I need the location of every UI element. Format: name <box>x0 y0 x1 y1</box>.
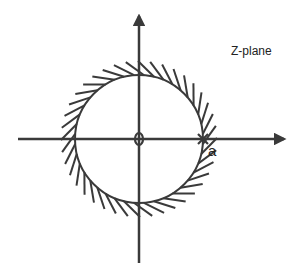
pole-label: a <box>208 142 217 159</box>
z-plane-diagram: a Z-plane <box>0 0 298 279</box>
plane-title: Z-plane <box>231 44 272 58</box>
